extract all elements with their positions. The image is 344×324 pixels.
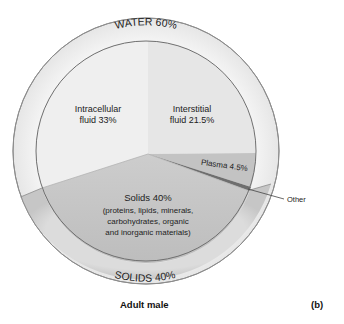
- panel-label: (b): [311, 299, 323, 310]
- chart-caption: Adult male: [120, 299, 169, 310]
- intracellular-label-line2: fluid 33%: [79, 115, 116, 125]
- solids-label-line1: Solids 40%: [124, 192, 172, 203]
- intracellular-label-line1: Intracellular: [75, 104, 122, 114]
- interstitial-label-line2: fluid 21.5%: [170, 115, 215, 125]
- interstitial-label-line1: Interstitial: [173, 104, 212, 114]
- solids-label-line2: (proteins, lipids, minerals,: [103, 206, 194, 215]
- body-fluid-pie-chart: WATER 60% SOLIDS 40% Intracellular fluid…: [0, 0, 344, 324]
- other-label: Other: [287, 195, 306, 204]
- solids-label-line4: and inorganic materials): [105, 228, 191, 237]
- solids-label-line3: carbohydrates, organic: [107, 217, 188, 226]
